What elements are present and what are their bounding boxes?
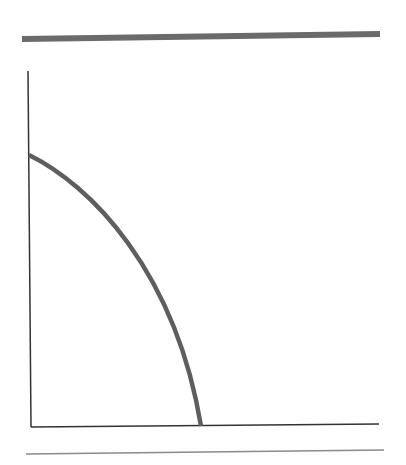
top-rule	[22, 34, 380, 39]
diagram-canvas	[0, 0, 406, 465]
ppf-curve	[29, 155, 201, 426]
y-axis	[28, 71, 31, 427]
bottom-rule	[26, 450, 384, 454]
x-axis	[31, 424, 379, 427]
